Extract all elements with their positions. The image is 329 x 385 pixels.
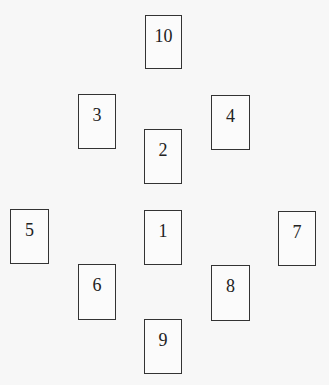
card-number: 6 (79, 275, 115, 295)
card-number: 7 (279, 222, 315, 242)
card-number: 5 (11, 220, 48, 240)
card-3: 3 (78, 94, 116, 149)
card-6: 6 (78, 264, 116, 320)
card-number: 9 (145, 330, 181, 350)
card-number: 10 (146, 26, 181, 46)
card-number: 1 (145, 221, 181, 241)
card-number: 2 (145, 140, 181, 160)
card-5: 5 (10, 209, 49, 264)
card-2: 2 (144, 129, 182, 184)
card-number: 4 (212, 106, 249, 126)
card-7: 7 (278, 211, 316, 266)
card-4: 4 (211, 95, 250, 150)
card-1: 1 (144, 210, 182, 265)
card-10: 10 (145, 15, 182, 69)
card-8: 8 (211, 265, 250, 321)
card-number: 8 (212, 276, 249, 296)
card-number: 3 (79, 105, 115, 125)
card-9: 9 (144, 319, 182, 374)
